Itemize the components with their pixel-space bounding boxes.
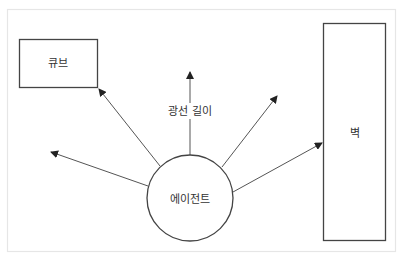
wall-node: 벽 (324, 24, 386, 241)
cube-label: 큐브 (48, 57, 68, 70)
ray-length-label: 광선 길이 (168, 105, 212, 118)
agent-node: 에이전트 (147, 155, 233, 241)
agent-label: 에이전트 (170, 193, 210, 206)
cube-node: 큐브 (20, 40, 98, 88)
agent-raycast-diagram: 광선 길이 큐브 벽 에이전트 (0, 0, 405, 259)
wall-label: 벽 (350, 127, 360, 140)
